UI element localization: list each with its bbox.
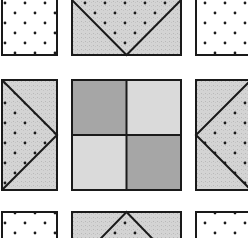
patch-bottom-left-light (72, 135, 127, 190)
flying-geese-bottom (72, 212, 181, 238)
quilt-diagram (0, 0, 248, 238)
corner-block-top-left (2, 0, 57, 55)
patch-top-right-light (127, 80, 182, 135)
corner-block-top-right (196, 0, 248, 55)
corner-block-bottom-right (196, 212, 248, 238)
corner-block-bottom-left (2, 212, 57, 238)
patch-bottom-right-dark (127, 135, 182, 190)
four-patch-center (72, 80, 181, 190)
flying-geese-top (72, 0, 181, 55)
flying-geese-right (196, 80, 248, 190)
flying-geese-left (2, 80, 57, 190)
patch-top-left-dark (72, 80, 127, 135)
